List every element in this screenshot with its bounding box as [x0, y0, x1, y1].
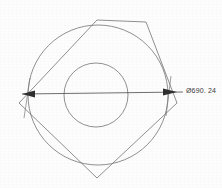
diameter-dimension-label[interactable]: Ø690. 24: [186, 87, 216, 94]
cad-drawing-canvas[interactable]: Ø690. 24: [0, 0, 222, 188]
outer-circle: [28, 25, 168, 165]
technical-drawing-svg: [0, 0, 222, 188]
diameter-dimension-line[interactable]: [22, 92, 183, 94]
extension-line-left: [24, 78, 30, 118]
arrowhead-left-icon: [22, 91, 35, 98]
arrowhead-right-icon: [163, 89, 177, 96]
pentagon-outline: [19, 20, 177, 178]
inner-circle: [64, 63, 128, 127]
